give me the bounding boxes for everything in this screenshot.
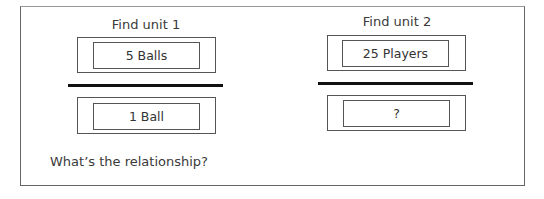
unit-2-denominator-field[interactable]: ? xyxy=(343,100,450,127)
unit-2-title: Find unit 2 xyxy=(317,14,477,29)
unit-2-numerator-outer-box: 25 Players xyxy=(327,35,466,71)
unit-1-fraction-bar xyxy=(68,84,223,87)
unit-1-denominator-field[interactable]: 1 Ball xyxy=(93,103,200,130)
relationship-prompt: What’s the relationship? xyxy=(50,154,208,169)
unit-1-numerator-field[interactable]: 5 Balls xyxy=(93,42,200,69)
unit-2-fraction-bar xyxy=(318,82,473,85)
unit-1-title: Find unit 1 xyxy=(66,17,226,32)
unit-1-numerator-outer-box: 5 Balls xyxy=(77,37,216,73)
unit-1-denominator-outer-box: 1 Ball xyxy=(77,97,216,134)
unit-2-denominator-outer-box: ? xyxy=(327,95,466,131)
unit-2-numerator-field[interactable]: 25 Players xyxy=(342,40,449,67)
